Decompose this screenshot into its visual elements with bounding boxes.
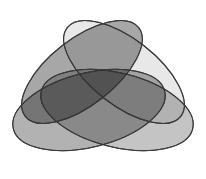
venn-diagram-canvas	[0, 0, 206, 179]
venn-diagram-figure	[0, 0, 206, 179]
